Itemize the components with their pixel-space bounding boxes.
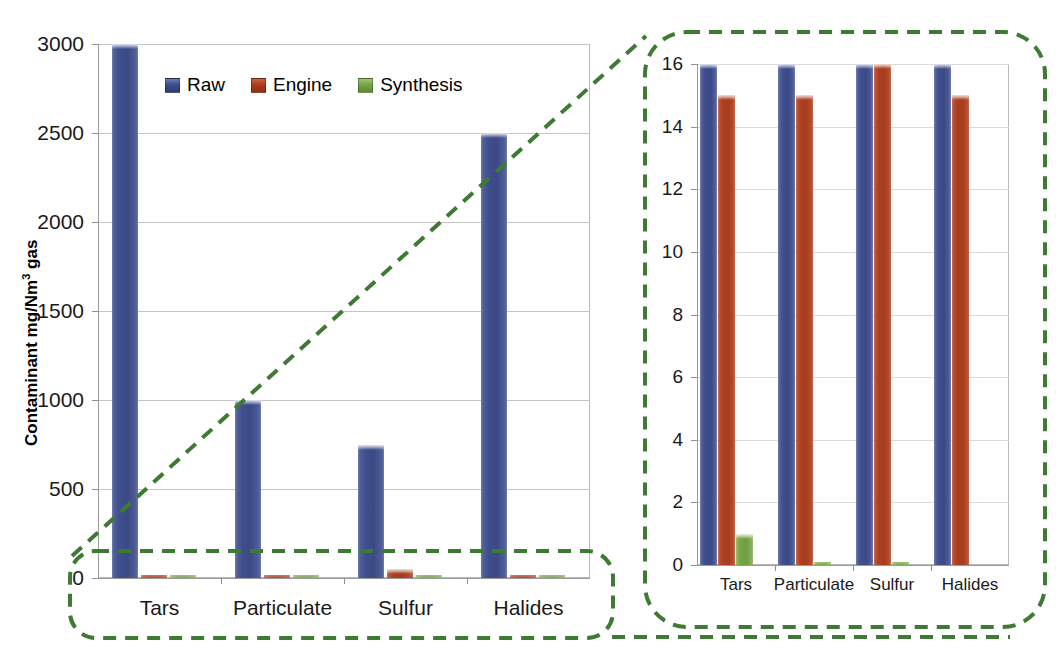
x-category-label-particulate: Particulate — [774, 575, 854, 595]
bar-highlight — [874, 64, 891, 69]
y-tick-label: 2000 — [0, 210, 84, 234]
y-tick-label: 0 — [0, 566, 84, 590]
bar-engine-halides — [952, 95, 969, 565]
y-axis-line — [697, 64, 698, 565]
left-plot-area — [98, 44, 590, 578]
gridline — [98, 222, 590, 223]
x-category-label-sulfur: Sulfur — [378, 596, 433, 620]
gridline — [98, 133, 590, 134]
gridline — [98, 311, 590, 312]
bar-raw-halides — [934, 64, 951, 565]
y-tick-label: 500 — [0, 477, 84, 501]
bar-highlight — [387, 569, 413, 574]
bar-engine-sulfur — [387, 569, 413, 578]
bar-highlight — [796, 95, 813, 100]
bar-raw-sulfur — [358, 445, 384, 579]
bar-engine-tars — [718, 95, 735, 565]
x-axis-tick — [344, 578, 345, 584]
gridline — [98, 44, 590, 45]
bar-highlight — [736, 534, 753, 539]
bar-highlight — [481, 133, 507, 138]
bar-synthesis-tars — [736, 534, 753, 565]
bar-engine-particulate — [264, 575, 290, 578]
bar-highlight — [700, 64, 717, 69]
y-axis-line — [98, 44, 99, 578]
y-tick-label: 8 — [625, 304, 683, 326]
bar-raw-particulate — [778, 64, 795, 565]
bar-synthesis-particulate — [814, 562, 831, 565]
x-axis-tick — [853, 565, 854, 571]
legend-item-raw: Raw — [165, 74, 225, 96]
x-axis-tick — [221, 578, 222, 584]
bar-synthesis-tars — [170, 575, 196, 578]
bar-synthesis-sulfur — [892, 562, 909, 565]
bar-highlight — [718, 95, 735, 100]
x-category-label-tars: Tars — [720, 575, 752, 595]
legend-label-engine: Engine — [273, 74, 332, 96]
x-category-label-sulfur: Sulfur — [870, 575, 914, 595]
x-axis-tick — [467, 578, 468, 584]
y-tick-label: 2 — [625, 491, 683, 513]
y-tick-label: 12 — [625, 178, 683, 200]
bar-engine-halides — [510, 575, 536, 578]
right-chart-panel: 0246810121416 TarsParticulateSulfurHalid… — [625, 0, 1059, 662]
y-tick-label: 16 — [625, 53, 683, 75]
right-plot-area — [697, 64, 1009, 565]
x-category-label-halides: Halides — [942, 575, 999, 595]
y-tick-label: 1500 — [0, 299, 84, 323]
bar-raw-sulfur — [856, 64, 873, 565]
legend-swatch-raw-icon — [165, 78, 180, 93]
bar-raw-tars — [700, 64, 717, 565]
bar-highlight — [952, 95, 969, 100]
gridline — [697, 64, 1009, 65]
bar-synthesis-halides — [539, 575, 565, 578]
y-tick-label: 0 — [625, 554, 683, 576]
bar-engine-particulate — [796, 95, 813, 565]
bar-raw-particulate — [235, 400, 261, 578]
gridline — [98, 489, 590, 490]
left-chart-panel: Contaminant mg/Nm3 gas 05001000150020002… — [0, 0, 625, 662]
bar-raw-tars — [112, 44, 138, 578]
bar-raw-halides — [481, 133, 507, 578]
bar-highlight — [358, 445, 384, 450]
y-tick-label: 3000 — [0, 32, 84, 56]
legend-label-raw: Raw — [187, 74, 225, 96]
y-tick-label: 6 — [625, 366, 683, 388]
x-axis-tick — [775, 565, 776, 571]
legend-item-synthesis: Synthesis — [358, 74, 462, 96]
bar-highlight — [934, 64, 951, 69]
y-tick-label: 14 — [625, 116, 683, 138]
gridline — [98, 400, 590, 401]
legend-swatch-engine-icon — [251, 78, 266, 93]
y-axis-title-tail: gas — [22, 240, 41, 274]
bar-highlight — [235, 400, 261, 405]
bar-highlight — [112, 44, 138, 49]
x-category-label-halides: Halides — [493, 596, 563, 620]
y-axis-title: Contaminant mg/Nm3 gas — [20, 240, 42, 446]
y-tick-label: 2500 — [0, 121, 84, 145]
y-axis-title-superscript: 3 — [20, 274, 32, 280]
bar-highlight — [778, 64, 795, 69]
y-tick-label: 10 — [625, 241, 683, 263]
y-tick-label: 1000 — [0, 388, 84, 412]
legend-item-engine: Engine — [251, 74, 332, 96]
legend-swatch-synthesis-icon — [358, 78, 373, 93]
bar-highlight — [856, 64, 873, 69]
x-axis-tick — [931, 565, 932, 571]
bar-engine-sulfur — [874, 64, 891, 565]
y-tick-label: 4 — [625, 429, 683, 451]
chart-legend: Raw Engine Synthesis — [165, 74, 463, 96]
x-category-label-tars: Tars — [140, 596, 180, 620]
bar-synthesis-sulfur — [416, 575, 442, 578]
x-category-label-particulate: Particulate — [233, 596, 332, 620]
bar-engine-tars — [141, 575, 167, 578]
bar-synthesis-particulate — [293, 575, 319, 578]
legend-label-synthesis: Synthesis — [380, 74, 462, 96]
